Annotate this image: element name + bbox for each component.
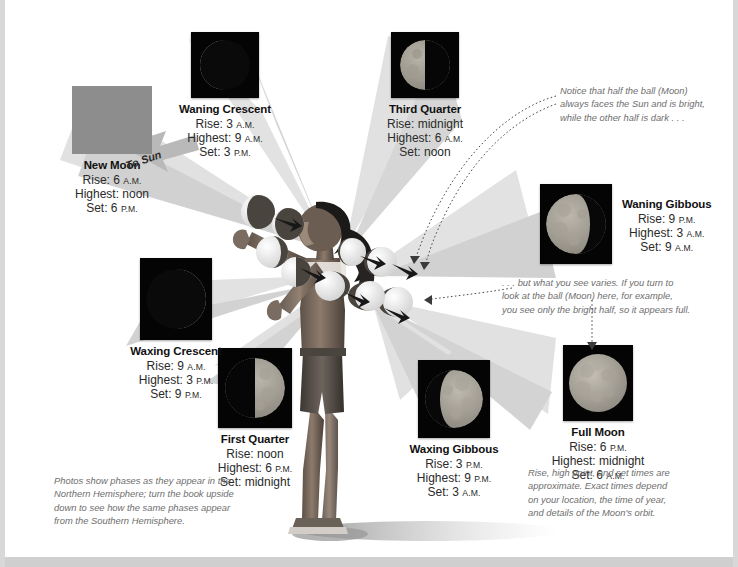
moon-photo-waning-crescent bbox=[191, 32, 259, 98]
ball-new-moon bbox=[241, 195, 275, 229]
phase-title: Waxing Crescent bbox=[106, 345, 246, 359]
phase-waxing-crescent[interactable]: Waxing Crescent Rise: 9 A.M. Highest: 3 … bbox=[106, 258, 246, 401]
moon-photo-waxing-crescent bbox=[140, 258, 212, 340]
moon-photo-full bbox=[563, 345, 633, 421]
annotation-top-right: Notice that half the ball (Moon) always … bbox=[560, 84, 738, 124]
phase-title: New Moon bbox=[42, 159, 182, 173]
annotation-middle-right: . . . but what you see varies. If you tu… bbox=[502, 276, 702, 316]
waxing-crescent-caption: Waxing Crescent Rise: 9 A.M. Highest: 3 … bbox=[106, 345, 246, 401]
phase-set: Set: 6 P.M. bbox=[42, 201, 182, 215]
new-moon-caption: New Moon Rise: 6 A.M. Highest: noon Set:… bbox=[42, 159, 182, 215]
phase-set: Set: noon bbox=[358, 145, 492, 159]
phase-rise: Rise: 9 P.M. bbox=[622, 212, 712, 226]
moon-phases-diagram: New Moon Rise: 6 A.M. Highest: noon Set:… bbox=[0, 0, 738, 567]
new-moon-swatch bbox=[72, 86, 152, 154]
moon-photo-third-quarter bbox=[391, 32, 459, 98]
phase-rise: Rise: 9 A.M. bbox=[106, 359, 246, 373]
phase-title: Waxing Gibbous bbox=[386, 443, 522, 457]
phase-waning-crescent[interactable]: Waning Crescent Rise: 3 A.M. Highest: 9 … bbox=[156, 32, 294, 159]
ball-third-quarter bbox=[338, 238, 366, 266]
phase-highest: Highest: 9 A.M. bbox=[156, 131, 294, 145]
phase-rise: Rise: noon bbox=[186, 447, 324, 461]
phase-set: Set: 9 A.M. bbox=[622, 240, 712, 254]
phase-title: Waning Crescent bbox=[156, 103, 294, 117]
phase-rise: Rise: 3 A.M. bbox=[156, 117, 294, 131]
phase-highest: Highest: 6 A.M. bbox=[358, 131, 492, 145]
ball-waxing-crescent bbox=[256, 236, 288, 268]
phase-title: Full Moon bbox=[500, 426, 696, 440]
phase-set: Set: 9 P.M. bbox=[106, 387, 246, 401]
phase-highest: Highest: 9 P.M. bbox=[386, 471, 522, 485]
phase-rise: Rise: midnight bbox=[358, 117, 492, 131]
phase-rise: Rise: 3 P.M. bbox=[386, 457, 522, 471]
phase-highest: Highest: 3 A.M. bbox=[622, 226, 712, 240]
waning-crescent-caption: Waning Crescent Rise: 3 A.M. Highest: 9 … bbox=[156, 103, 294, 159]
phase-third-quarter[interactable]: Third Quarter Rise: midnight Highest: 6 … bbox=[358, 32, 492, 159]
phase-title: First Quarter bbox=[186, 433, 324, 447]
phase-full-moon[interactable]: Full Moon Rise: 6 P.M. Highest: midnight… bbox=[500, 345, 696, 482]
phase-set: Set: 3 A.M. bbox=[386, 485, 522, 499]
annotation-bottom-right: Rise, high point, and set times are appr… bbox=[528, 466, 718, 519]
phase-highest: Highest: 3 P.M. bbox=[106, 373, 246, 387]
phase-highest: Highest: 6 P.M. bbox=[186, 461, 324, 475]
phase-title: Third Quarter bbox=[358, 103, 492, 117]
third-quarter-caption: Third Quarter Rise: midnight Highest: 6 … bbox=[358, 103, 492, 159]
moon-photo-waxing-gibbous bbox=[418, 360, 490, 438]
waning-gibbous-caption: Waning Gibbous Rise: 9 P.M. Highest: 3 A… bbox=[622, 184, 712, 254]
phase-title: Waning Gibbous bbox=[622, 198, 712, 212]
phase-waxing-gibbous[interactable]: Waxing Gibbous Rise: 3 P.M. Highest: 9 P… bbox=[386, 360, 522, 499]
annotation-bottom-left: Photos show phases as they appear in the… bbox=[54, 474, 254, 527]
waxing-gibbous-caption: Waxing Gibbous Rise: 3 P.M. Highest: 9 P… bbox=[386, 443, 522, 499]
phase-rise: Rise: 6 P.M. bbox=[500, 440, 696, 454]
phase-rise: Rise: 6 A.M. bbox=[42, 173, 182, 187]
phase-set: Set: 3 P.M. bbox=[156, 145, 294, 159]
phase-highest: Highest: noon bbox=[42, 187, 182, 201]
moon-photo-waning-gibbous bbox=[540, 184, 612, 264]
phase-waning-gibbous[interactable]: Waning Gibbous Rise: 9 P.M. Highest: 3 A… bbox=[540, 184, 736, 264]
